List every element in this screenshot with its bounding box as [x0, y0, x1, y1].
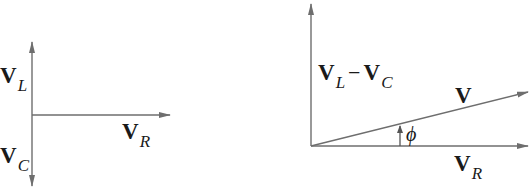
- left-phasor-diagram: [32, 42, 170, 186]
- label-vc-sub: C: [18, 156, 29, 175]
- label-vlc-main1: V: [318, 60, 335, 85]
- label-vl-main: V: [0, 63, 17, 88]
- phasor-diagrams-canvas: [0, 0, 530, 190]
- label-vr-right: VR: [454, 152, 482, 175]
- label-vlc-main2: V: [364, 60, 381, 85]
- label-vr-right-sub: R: [472, 164, 482, 183]
- label-phi: ϕ: [406, 124, 416, 144]
- v-resultant-arrow: [311, 92, 528, 146]
- label-vlc-sub2: C: [381, 73, 392, 92]
- label-vc-main: V: [0, 143, 17, 168]
- label-vr-left: VR: [122, 120, 150, 143]
- label-vc: VC: [0, 144, 29, 167]
- label-vlc-sub1: L: [336, 73, 345, 92]
- label-vl-minus-vc: VL−VC: [318, 61, 392, 84]
- label-vr-left-sub: R: [140, 132, 150, 151]
- label-v-main: V: [455, 83, 472, 108]
- label-vl-sub: L: [18, 76, 27, 95]
- label-v-resultant: V: [455, 84, 472, 107]
- label-vlc-minus: −: [348, 60, 360, 85]
- label-vr-right-main: V: [454, 151, 471, 176]
- label-vr-left-main: V: [122, 119, 139, 144]
- label-vl: VL: [0, 64, 27, 87]
